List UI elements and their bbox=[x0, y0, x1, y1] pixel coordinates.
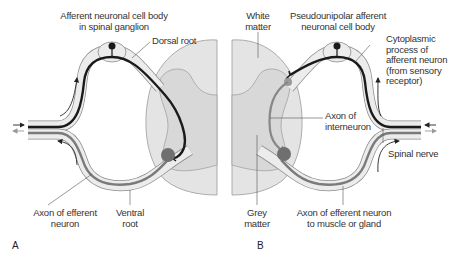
label-white-matter: White matter bbox=[240, 11, 276, 32]
panel-letter-b: B bbox=[257, 240, 264, 251]
panel-a bbox=[13, 40, 217, 205]
label-afferent-cell-body-a: Afferent neuronal cell body in spinal ga… bbox=[58, 11, 170, 32]
label-efferent-axon-b: Axon of efferent neuron to muscle or gla… bbox=[290, 208, 398, 229]
label-interneuron-axon: Axon of interneuron bbox=[325, 111, 371, 132]
panel-letter-a: A bbox=[12, 240, 19, 251]
afferent-cell-body-a bbox=[109, 43, 116, 50]
label-cytoplasmic-process: Cytoplasmic process of afferent neuron (… bbox=[386, 34, 447, 87]
efferent-cell-body-a bbox=[161, 148, 175, 162]
label-grey-matter: Grey matter bbox=[240, 208, 274, 229]
label-spinal-nerve: Spinal nerve bbox=[388, 149, 438, 160]
label-pseudounipolar: Pseudounipolar afferent neuronal cell bo… bbox=[290, 11, 386, 32]
afferent-cell-body-b bbox=[334, 43, 341, 50]
label-dorsal-root: Dorsal root bbox=[152, 36, 196, 47]
label-ventral-root: Ventral root bbox=[110, 208, 150, 229]
efferent-cell-body-b bbox=[277, 147, 291, 161]
label-efferent-axon-a: Axon of efferent neuron bbox=[30, 208, 100, 229]
